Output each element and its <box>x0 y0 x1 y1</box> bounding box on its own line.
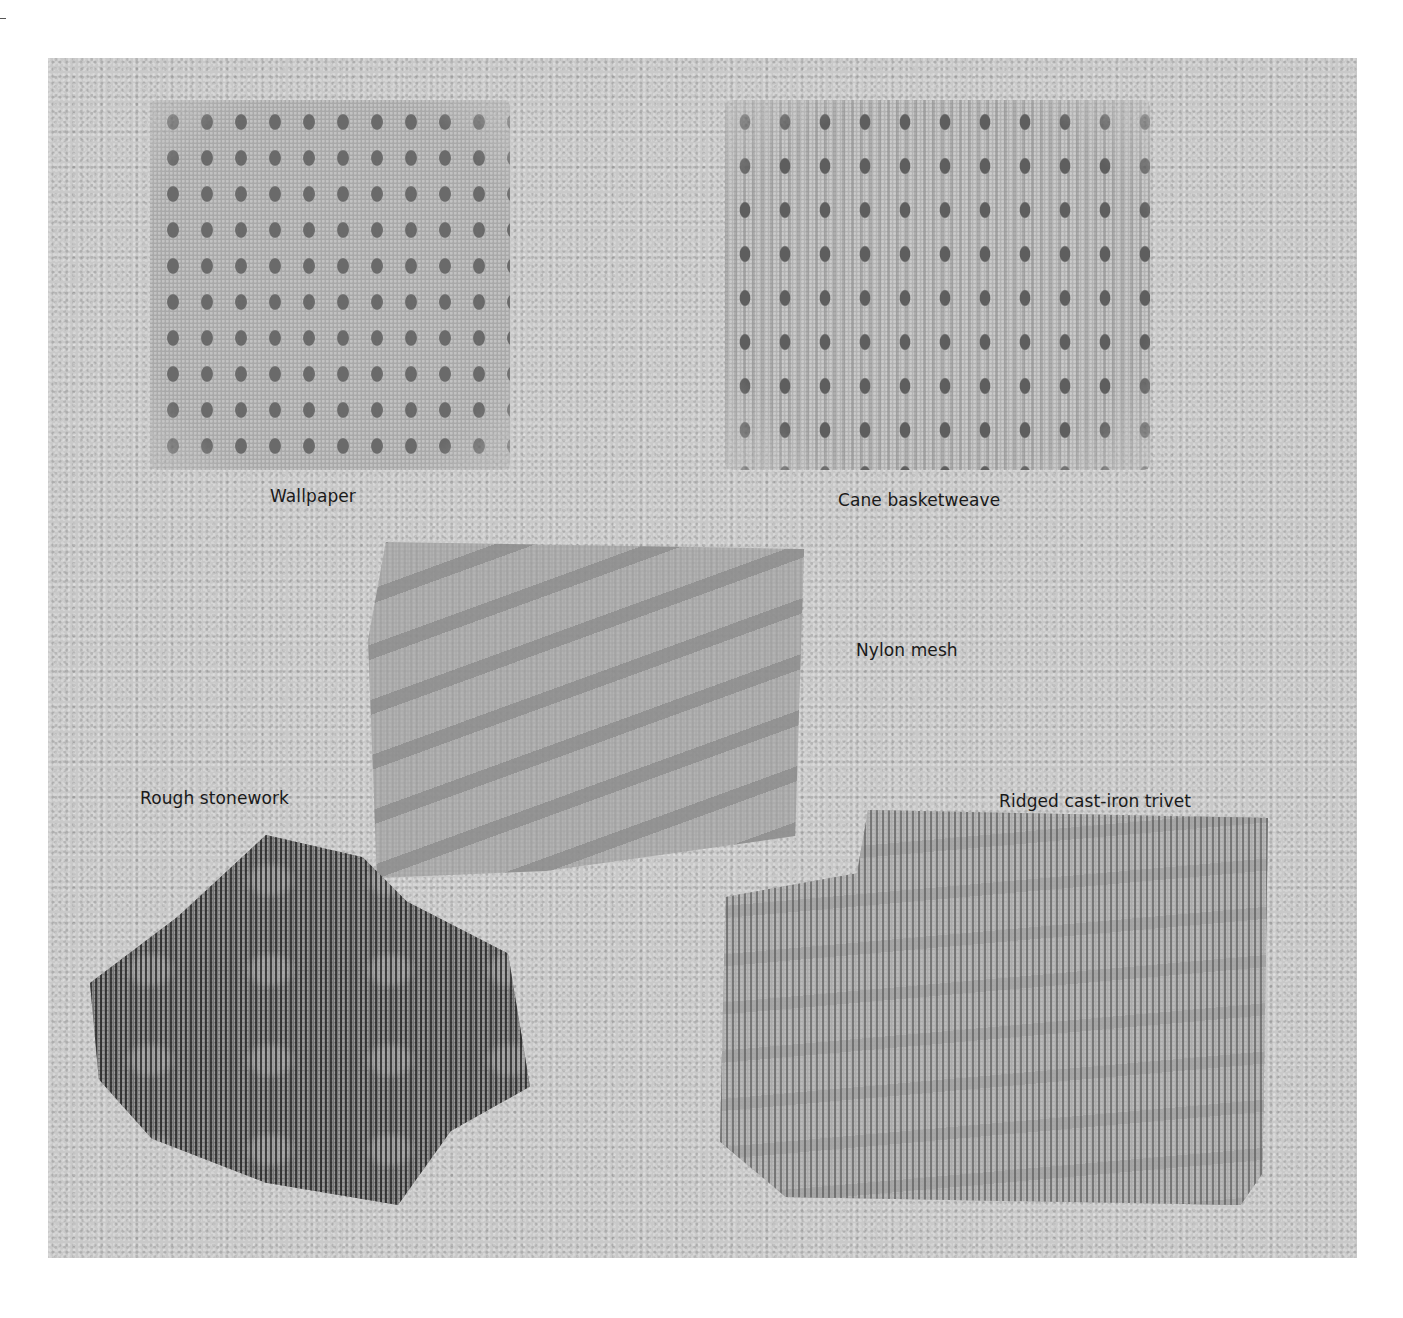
rough-stonework-label: Rough stonework <box>140 788 289 808</box>
nylon-mesh-label: Nylon mesh <box>856 640 958 660</box>
wallpaper-label: Wallpaper <box>270 486 356 506</box>
cane-basketweave-rubbing <box>725 100 1150 470</box>
nylon-mesh-rubbing <box>368 535 813 885</box>
cast-iron-trivet-label: Ridged cast-iron trivet <box>999 791 1191 811</box>
wallpaper-rubbing <box>150 100 510 470</box>
margin-tick-mark <box>0 18 6 19</box>
cane-basketweave-label: Cane basketweave <box>838 490 1000 510</box>
